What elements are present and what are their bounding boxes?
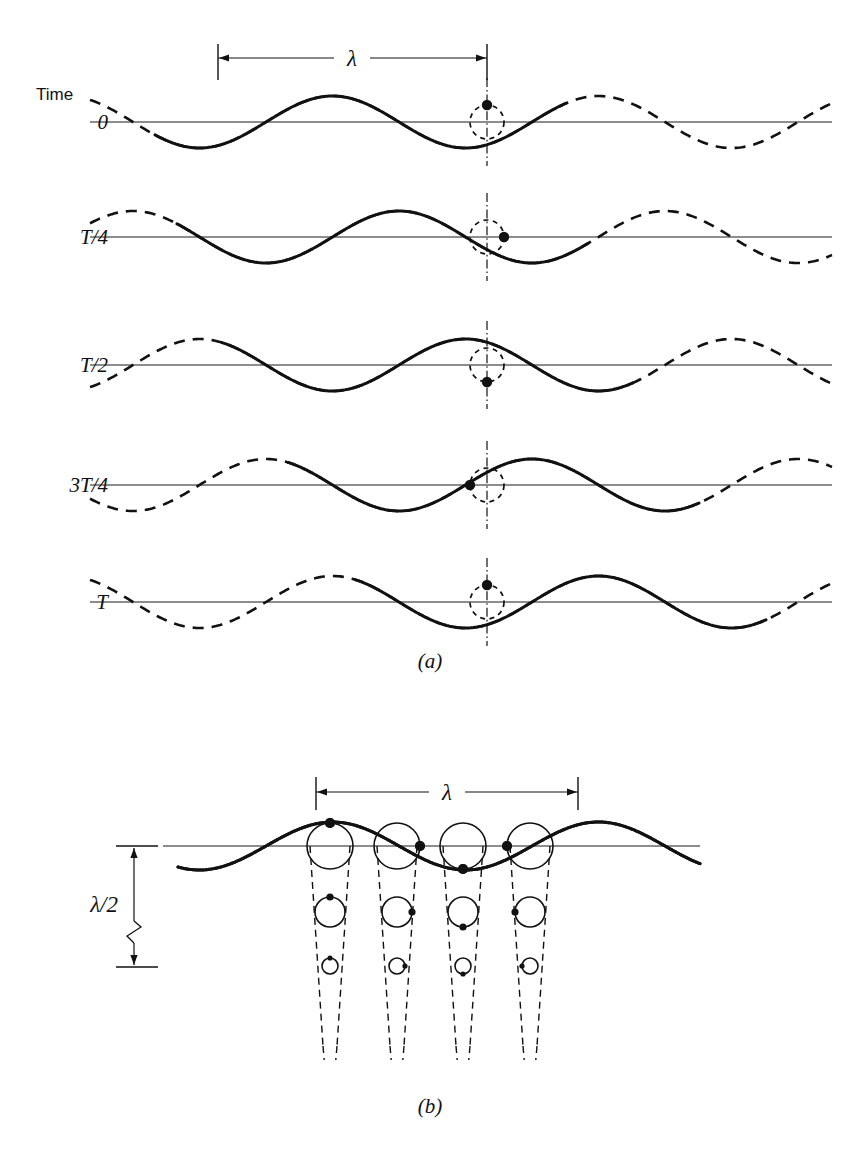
panel-b: [116, 777, 700, 1060]
panel-a-caption: (a): [418, 649, 443, 673]
ray-left: [443, 846, 456, 1046]
ray-tail-left: [390, 1046, 391, 1060]
ray-tail-left: [456, 1046, 457, 1060]
particle-dot: [482, 100, 492, 110]
wave-row-0: [90, 78, 832, 166]
wavelength-label-panel-a: λ: [346, 46, 357, 71]
wave-row-2: [90, 321, 832, 409]
particle-dot: [482, 580, 492, 590]
half-wavelength-label: λ/2: [89, 892, 118, 917]
particle-dot-tier-1: [459, 923, 466, 930]
particle-circle-tier-1: [515, 897, 545, 927]
wave-propagation-figure: 0T/4T/23T/4T Time (a) (b) λ λ λ/2: [0, 0, 859, 1160]
wavelength-arrowhead-left: [317, 788, 327, 795]
dimension-break-symbol: [127, 921, 141, 943]
ray-right: [404, 846, 417, 1046]
particle-dot-tier-1: [511, 908, 518, 915]
time-axis-header: Time: [36, 85, 73, 104]
surface-particle-dot-2: [458, 864, 468, 874]
ray-left: [310, 846, 323, 1046]
wave-row-4: [90, 558, 832, 646]
ray-left: [377, 846, 390, 1046]
half-wavelength-arrowhead-bottom: [130, 955, 137, 965]
particle-dot-tier-1: [408, 908, 415, 915]
wavelength-arrowhead-right: [476, 54, 486, 61]
row-label-0: 0: [98, 110, 109, 134]
surface-particle-dot-3: [502, 841, 512, 851]
source-column-0: [307, 818, 353, 1060]
particle-dot-tier-2: [460, 971, 465, 976]
figure-canvas: 0T/4T/23T/4T Time (a) (b) λ λ λ/2: [0, 0, 859, 1160]
ray-tail-left: [323, 1046, 324, 1060]
ray-tail-right: [469, 1046, 470, 1060]
particle-circle-tier-1: [315, 897, 345, 927]
particle-circle-tier-1: [382, 897, 412, 927]
particle-dot-tier-2: [519, 963, 524, 968]
wave-row-1: [90, 193, 832, 281]
source-column-1: [374, 823, 425, 1060]
ray-tail-right: [403, 1046, 404, 1060]
ray-tail-right: [536, 1046, 537, 1060]
row-label-4: T: [96, 590, 109, 614]
particle-dot-tier-1: [326, 893, 333, 900]
ray-tail-right: [336, 1046, 337, 1060]
particle-dot: [499, 232, 509, 242]
panel-a: 0T/4T/23T/4T: [68, 44, 832, 646]
source-column-2: [440, 823, 486, 1060]
wavelength-arrowhead-right: [567, 788, 577, 795]
particle-dot: [465, 480, 475, 490]
surface-particle-dot-1: [415, 841, 425, 851]
ray-left: [510, 846, 523, 1046]
panel-b-caption: (b): [418, 1094, 443, 1118]
particle-dot-tier-2: [327, 955, 332, 960]
particle-dot: [482, 377, 492, 387]
row-label-1: T/4: [80, 225, 109, 249]
surface-particle-dot-0: [325, 818, 335, 828]
ray-right: [337, 846, 350, 1046]
wavelength-label-panel-b: λ: [441, 780, 452, 805]
row-label-2: T/2: [80, 353, 109, 377]
ray-right: [537, 846, 550, 1046]
particle-circle-tier-1: [448, 897, 478, 927]
wave-row-3: [90, 441, 832, 529]
half-wavelength-arrowhead-top: [130, 848, 137, 858]
row-label-3: 3T/4: [68, 473, 108, 497]
ray-right: [470, 846, 483, 1046]
particle-dot-tier-2: [402, 963, 407, 968]
wavelength-arrowhead-left: [219, 54, 229, 61]
ray-tail-left: [523, 1046, 524, 1060]
